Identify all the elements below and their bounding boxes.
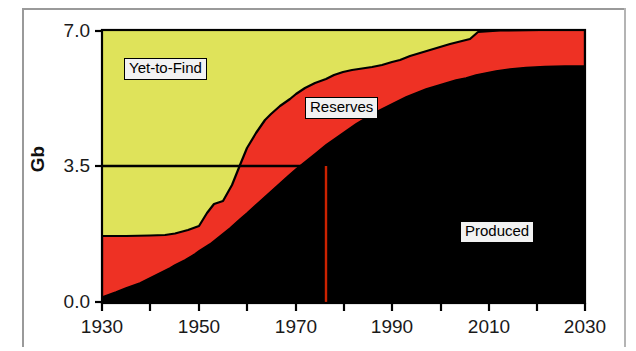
chart-page: Gb 7.0 3.5 0.0 1930 1950 1970 1990 2010 …	[0, 0, 636, 351]
y-tick-label-0: 0.0	[44, 291, 90, 313]
plot-area: Gb 7.0 3.5 0.0 1930 1950 1970 1990 2010 …	[0, 0, 636, 351]
x-tick-label-2010: 2010	[449, 316, 529, 338]
annotation-yet-to-find: Yet-to-Find	[124, 58, 207, 80]
x-tick-label-1970: 1970	[256, 316, 336, 338]
x-tick-label-1930: 1930	[62, 316, 142, 338]
stacked-area-chart-svg	[0, 0, 636, 351]
y-tick-label-7: 7.0	[44, 20, 90, 42]
y-tick-label-3point5: 3.5	[44, 155, 90, 177]
annotation-reserves: Reserves	[305, 97, 378, 119]
x-tick-label-2030: 2030	[545, 316, 625, 338]
x-tick-label-1950: 1950	[159, 316, 239, 338]
x-tick-label-1990: 1990	[352, 316, 432, 338]
annotation-produced: Produced	[460, 221, 534, 243]
